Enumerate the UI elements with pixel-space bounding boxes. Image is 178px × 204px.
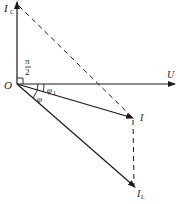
label-ic: I <box>3 2 9 14</box>
label-origin: O <box>4 79 12 91</box>
label-2: 2 <box>25 67 30 77</box>
phasor-il <box>17 84 135 187</box>
label-i: I <box>139 112 144 123</box>
angle-arc-phi1 <box>43 84 44 92</box>
dashed-i-to-il <box>133 120 134 185</box>
label-pi: π <box>25 56 30 66</box>
label-ic-sub: C <box>10 9 14 15</box>
label-phi1-sub: 1 <box>53 90 56 96</box>
right-angle-marker <box>17 78 23 84</box>
label-phi1: φ <box>47 85 52 95</box>
phasor-diagram: I C U I I L O π 2 φ 1 φ <box>0 0 178 204</box>
label-il-sub: L <box>141 194 145 200</box>
label-phi: φ <box>37 94 42 104</box>
label-u: U <box>167 69 175 80</box>
